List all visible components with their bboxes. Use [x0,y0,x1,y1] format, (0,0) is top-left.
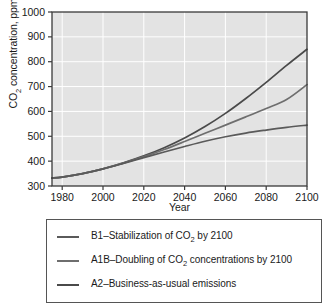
y-axis-tick-label: 600 [27,105,45,117]
y-axis-tick-label: 900 [27,30,45,42]
legend-item-a2: A2–Business-as-usual emissions [57,276,319,294]
y-axis-tick-label: 800 [27,55,45,67]
legend-swatch-b1 [57,236,79,238]
chart-legend: B1–Stabilization of CO2 by 2100 A1B–Doub… [46,219,322,303]
y-axis-tick-label: 300 [27,180,45,192]
legend-label-a1b: A1B–Doubling of CO2 concentrations by 21… [91,254,292,268]
y-axis-label-sub: 2 [14,89,23,93]
y-axis-label-pre: CO [7,93,19,109]
legend-item-a1b: A1B–Doubling of CO2 concentrations by 21… [57,252,319,270]
plot-background [52,12,307,186]
legend-item-b1: B1–Stabilization of CO2 by 2100 [57,228,319,246]
y-axis-tick-label: 500 [27,130,45,142]
y-axis-tick-label: 1000 [22,6,46,18]
line-chart-svg: 3004005006007008009001000198020002020204… [0,0,326,220]
legend-swatch-a1b [57,260,79,262]
y-axis-tick-label: 700 [27,80,45,92]
legend-label-b1: B1–Stabilization of CO2 by 2100 [91,230,233,244]
legend-label-a2: A2–Business-as-usual emissions [91,278,236,292]
x-axis-label: Year [52,201,307,213]
legend-swatch-a2 [57,284,79,286]
chart-plot-area: 3004005006007008009001000198020002020204… [0,0,326,220]
y-axis-label: CO2 concentration, ppm [7,0,22,129]
y-axis-label-post: concentration, ppm [7,0,19,89]
co2-projection-figure: 3004005006007008009001000198020002020204… [0,0,326,307]
y-axis-tick-label: 400 [27,155,45,167]
